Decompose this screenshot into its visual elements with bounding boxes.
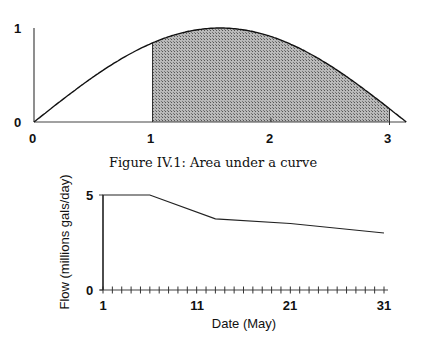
figure-canvas: 1 0 0 1 2 3 5 0 1 11 21 31 Date (May) Fl… — [0, 0, 426, 350]
y-tick-label-0: 0 — [14, 115, 21, 130]
x-tick-label-2: 2 — [266, 131, 273, 146]
x-tick-label-1: 1 — [147, 131, 154, 146]
x-tick-label-3: 3 — [384, 131, 391, 146]
y-axis-title: Flow (millions gals/day) — [57, 174, 72, 309]
x-tick-label-21: 21 — [283, 298, 297, 313]
y-tick-label-0: 0 — [86, 283, 93, 298]
shaded-area — [153, 28, 390, 122]
x-axis-title: Date (May) — [212, 316, 276, 331]
area-chart: 1 0 0 1 2 3 — [14, 21, 406, 146]
x-tick-label-0: 0 — [29, 131, 36, 146]
flow-line — [103, 195, 384, 290]
x-tick-label-1: 1 — [99, 298, 106, 313]
x-tick-label-31: 31 — [377, 298, 391, 313]
x-tick-label-11: 11 — [190, 298, 204, 313]
flow-line-chart: 5 0 1 11 21 31 Date (May) Flow (millions… — [57, 174, 391, 331]
y-tick-label-5: 5 — [86, 188, 93, 203]
figure-caption: Figure IV.1: Area under a curve — [0, 155, 426, 170]
y-tick-label-1: 1 — [14, 21, 21, 36]
